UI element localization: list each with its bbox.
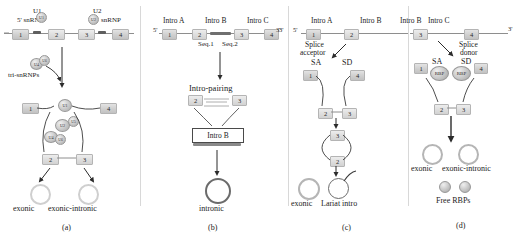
panel-b-seq2-label: Seq.2 <box>222 41 238 48</box>
panel-c-sa-label: SA <box>311 59 321 67</box>
panel-c-three-prime: 3' <box>276 27 280 34</box>
panel-b-five-prime: 5' <box>153 27 157 34</box>
panel-c-product-label-lariat: Lariat intro <box>321 200 357 208</box>
panel-a-product-label-exonic-intronic: exonic-intronic <box>48 205 97 213</box>
panel-a-exon-3: 3 <box>78 29 95 40</box>
panel-b: 5' 3' Intro A Intro B Intro C 1 2 3 4 Se… <box>140 0 288 240</box>
panel-d-rbp-left: RBP <box>430 66 449 81</box>
panel-c-product-lariat <box>328 178 349 199</box>
panel-a-complex-u5: U5 <box>68 116 79 127</box>
panel-d-three-prime: 3' <box>508 26 512 33</box>
panel-d-intro-b-label: Intro B <box>400 17 421 25</box>
panel-d-exon-3: 3 <box>413 29 428 40</box>
panel-b-product-circle-intronic <box>205 178 231 204</box>
panel-d-product-circle-exonic-intronic <box>458 144 479 165</box>
panel-a-product-circle-exonic <box>30 184 51 205</box>
panel-c-caption: (c) <box>342 224 351 232</box>
panel-d-loop-exon-2: 2 <box>434 104 449 115</box>
panel-b-exon-1: 1 <box>162 29 177 40</box>
panel-c-sd-label: SD <box>342 59 352 67</box>
panel-a-complex-exon-2: 2 <box>42 154 59 165</box>
panel-c-intro-b-label: Intro B <box>360 17 381 25</box>
panel-b-caption: (b) <box>208 224 217 232</box>
panel-b-step-intro-b-box: Intro B <box>192 128 244 143</box>
panel-a-tri-snrnp-label: tri-snRNPs <box>8 72 39 79</box>
panel-c-loop-exon-2: 2 <box>318 108 333 119</box>
panel-a-product-label-exonic: exonic <box>13 205 34 213</box>
panel-a-u6-blob: U6 <box>39 55 50 66</box>
panel-a-product-circle-exonic-intronic <box>78 184 99 205</box>
panel-c-splice-acceptor-line2: acceptor <box>300 49 325 57</box>
panel-b-product-label-intronic: intronic <box>199 205 224 213</box>
figure-canvas: U1 5' snRNP U2 snRNP 1 2 3 4 U1 U2 U4 U6… <box>0 0 524 240</box>
panel-a-complex-u1: U1 <box>58 99 72 112</box>
panel-d-caption: (d) <box>456 222 465 230</box>
panel-d-loop-exon-1: 1 <box>414 63 428 74</box>
panel-d-product-circle-exonic <box>422 144 443 165</box>
panel-d-free-rbp-1 <box>439 181 451 193</box>
panel-d-product-label-exonic-intronic: exonic-intronic <box>442 165 491 173</box>
panel-c-intro-a-label: Intro A <box>311 17 332 25</box>
panel-a-complex-exon-3: 3 <box>76 154 93 165</box>
panel-c-product-circle-exonic <box>298 178 320 200</box>
panel-d-loop-exon-4: 4 <box>474 63 488 74</box>
panel-d-splice-donor-line2: donor <box>460 49 478 57</box>
panel-d-intro-c-label: Intro C <box>428 17 449 25</box>
panel-c-loop-exon-4: 4 <box>350 70 365 81</box>
panel-b-pair-exon-3: 3 <box>232 95 247 106</box>
panel-b-intro-b-bar-2 <box>193 143 241 146</box>
panel-b-step-pairing-label: Intro-pairing <box>189 84 232 93</box>
panel-a-complex-exon-1: 1 <box>22 103 39 114</box>
panel-d-rbp-right: RBP <box>452 66 471 81</box>
panel-a-caption: (a) <box>62 224 71 232</box>
panel-c-circ-exon-3: 3 <box>330 130 345 141</box>
panel-b-intro-b-bar <box>210 32 231 35</box>
panel-c-exon-2: 2 <box>344 29 359 40</box>
panel-b-seq1-label: Seq.1 <box>198 41 214 48</box>
panel-a-exon-4: 4 <box>112 29 129 40</box>
panel-a: U1 5' snRNP U2 snRNP 1 2 3 4 U1 U2 U4 U6… <box>0 0 140 240</box>
panel-c-product-label-exonic: exonic <box>291 200 312 208</box>
panel-b-intro-b-label: Intro B <box>205 17 226 25</box>
panel-d-product-label-exonic: exonic <box>411 165 432 173</box>
panel-c-exon-1: 1 <box>306 29 321 40</box>
panel-d-loop-exon-3: 3 <box>456 104 471 115</box>
panel-a-exon-2: 2 <box>48 29 65 40</box>
panel-c-five-prime: 5' <box>293 27 297 34</box>
panel-c-loop-exon-1: 1 <box>303 70 318 81</box>
panel-d: 3' Intro B Intro C 3 4 Splice donor SA S… <box>408 0 524 240</box>
panel-a-exon-1: 1 <box>12 29 29 40</box>
panel-c: 5' 3' Intro A Intro B 1 2 Splice accepto… <box>288 0 408 240</box>
panel-d-free-rbps-label: Free RBPs <box>436 197 470 205</box>
panel-a-u2-snrnp-label: snRNP <box>101 17 121 24</box>
panel-d-sa-label: SA <box>432 58 442 66</box>
panel-a-complex-exon-4: 4 <box>100 103 117 114</box>
panel-b-exon-3: 3 <box>234 29 249 40</box>
panel-a-u1-anchor <box>33 31 41 34</box>
panel-b-intro-a-label: Intro A <box>163 17 184 25</box>
panel-c-loop-exon-3: 3 <box>342 108 357 119</box>
panel-a-u2-anchor <box>98 31 106 34</box>
panel-d-exon-4: 4 <box>464 29 479 40</box>
panel-b-pair-exon-2: 2 <box>188 95 203 106</box>
panel-c-circ-exon-2: 2 <box>330 156 345 167</box>
panel-b-intro-c-label: Intro C <box>247 17 268 25</box>
panel-d-free-rbp-2 <box>459 181 471 193</box>
panel-d-sd-label: SD <box>461 58 471 66</box>
panel-a-u2-snrnp-blob: U2 <box>88 14 99 25</box>
panel-a-u1-snrnp-blob: U1 <box>36 12 47 23</box>
panel-a-complex-u6: U6 <box>55 134 66 145</box>
panel-b-exon-2: 2 <box>192 29 207 40</box>
